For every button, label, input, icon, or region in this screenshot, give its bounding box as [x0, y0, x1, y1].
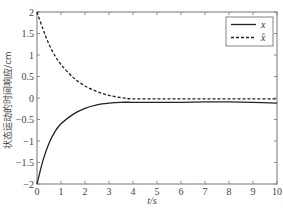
- legend: x x̂: [226, 17, 273, 46]
- x-tick-label: 7: [203, 186, 208, 197]
- x-axis-tick-labels: 012345678910: [35, 186, 283, 197]
- y-tick-label: 0: [29, 93, 34, 104]
- x-tick-label: 9: [251, 186, 256, 197]
- y-tick-label: −2: [23, 179, 34, 190]
- x-tick-label: 3: [107, 186, 112, 197]
- legend-label-xhat: x̂: [260, 32, 266, 43]
- y-tick-label: 0.5: [22, 71, 35, 82]
- x-tick-label: 4: [131, 186, 136, 197]
- x-tick-label: 2: [83, 186, 88, 197]
- y-axis-tick-labels: −2−1.5−1−0.500.511.52: [16, 7, 34, 190]
- y-axis-title: 状态运动的时间响应/cm: [2, 51, 13, 149]
- y-tick-label: −1: [23, 136, 34, 147]
- x-tick-label: 1: [59, 186, 64, 197]
- x-tick-label: 0: [35, 186, 40, 197]
- x-tick-label: 8: [227, 186, 232, 197]
- y-tick-label: −0.5: [16, 114, 34, 125]
- x-axis-title: t/s: [147, 195, 157, 206]
- legend-box: [226, 17, 273, 46]
- line-chart: 012345678910 −2−1.5−1−0.500.511.52 t/s 状…: [0, 0, 282, 208]
- y-tick-label: −1.5: [16, 157, 34, 168]
- y-tick-label: 1.5: [22, 28, 35, 39]
- legend-label-x: x: [260, 19, 266, 30]
- y-tick-label: 1: [29, 50, 34, 61]
- x-tick-label: 10: [272, 186, 282, 197]
- x-tick-label: 6: [179, 186, 184, 197]
- y-tick-label: 2: [29, 7, 34, 18]
